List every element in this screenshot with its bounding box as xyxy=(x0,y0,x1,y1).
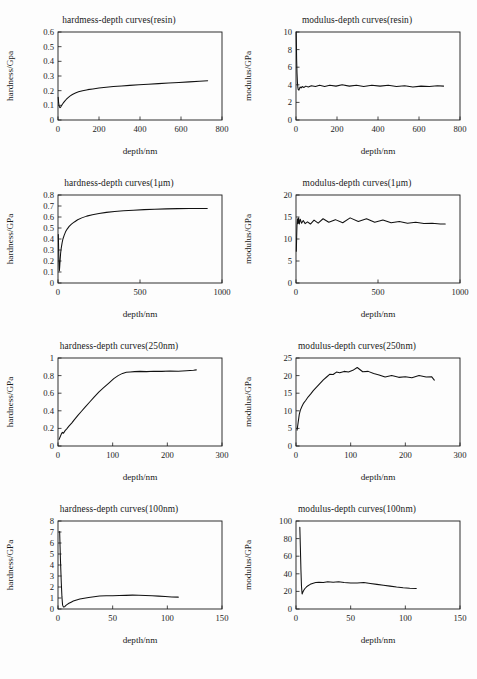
y-axis-title: hardness/GPa xyxy=(5,540,15,591)
y-tick-label: 0 xyxy=(288,115,292,125)
x-tick-label: 1000 xyxy=(213,287,230,297)
y-tick-label: 20 xyxy=(283,371,292,381)
y-tick-label: 0.8 xyxy=(43,371,54,381)
y-tick-label: 0.6 xyxy=(43,388,54,398)
y-tick-label: 40 xyxy=(283,569,292,579)
y-tick-label: 8 xyxy=(288,45,292,55)
chart-title: hardness-depth curves(250nm) xyxy=(0,340,238,352)
plot-area: 050100150020406080100depth/nmmodulus/GPa xyxy=(238,515,476,645)
y-tick-label: 0.1 xyxy=(43,100,54,110)
x-tick-label: 0 xyxy=(56,613,60,623)
data-series-curve xyxy=(59,370,196,440)
plot-area: 020040060080000.10.20.30.40.50.6depth/nm… xyxy=(0,26,238,156)
y-tick-label: 8 xyxy=(50,516,54,526)
y-tick-label: 6 xyxy=(288,62,293,72)
x-tick-label: 0 xyxy=(294,450,298,460)
y-axis-title: hardness/GPa xyxy=(5,377,15,428)
x-axis-title: depth/nm xyxy=(361,309,396,319)
plot-frame xyxy=(58,32,222,120)
y-tick-label: 3 xyxy=(50,571,54,581)
y-tick-label: 60 xyxy=(283,551,292,561)
y-axis-title: modulus/GPa xyxy=(243,540,253,590)
y-tick-label: 0.5 xyxy=(43,223,54,233)
x-tick-label: 0 xyxy=(294,287,298,297)
x-tick-label: 200 xyxy=(399,450,412,460)
y-tick-label: 0.4 xyxy=(43,56,54,66)
x-tick-label: 200 xyxy=(331,124,344,134)
plot-area: 01002003000510152025depth/nmmodulus/GPa xyxy=(238,352,476,482)
x-tick-label: 200 xyxy=(161,450,174,460)
y-tick-label: 0 xyxy=(288,604,292,614)
x-tick-label: 150 xyxy=(216,613,229,623)
plot-frame xyxy=(296,32,460,120)
y-tick-label: 0 xyxy=(50,278,54,288)
x-tick-label: 800 xyxy=(454,124,467,134)
y-tick-label: 0.3 xyxy=(43,245,54,255)
x-tick-label: 100 xyxy=(161,613,174,623)
chart-panel-modulus-1um: modulus-depth curves(1μm) 05001000051015… xyxy=(238,175,476,338)
x-tick-label: 0 xyxy=(294,124,298,134)
x-tick-label: 200 xyxy=(93,124,106,134)
y-tick-label: 10 xyxy=(283,234,292,244)
chart-title: hardmess-depth curves(resin) xyxy=(0,14,238,26)
y-tick-label: 7 xyxy=(50,527,55,537)
y-tick-label: 2 xyxy=(50,582,54,592)
y-axis-title: modulus/GPa xyxy=(243,377,253,427)
x-tick-label: 300 xyxy=(454,450,467,460)
x-axis-title: depth/nm xyxy=(361,635,396,645)
y-axis-title: modulus/GPa xyxy=(243,51,253,101)
y-tick-label: 1 xyxy=(50,593,54,603)
x-tick-label: 600 xyxy=(413,124,426,134)
x-tick-label: 500 xyxy=(134,287,147,297)
x-axis-title: depth/nm xyxy=(123,635,158,645)
y-axis-title: hardness/Gpa xyxy=(5,51,15,101)
data-series-curve xyxy=(296,32,443,90)
plot-area: 0500100005101520depth/nmmodulus/GPa xyxy=(238,189,476,319)
y-tick-label: 0.2 xyxy=(43,423,54,433)
chart-grid: hardmess-depth curves(resin) 02004006008… xyxy=(0,12,477,664)
y-tick-label: 0.2 xyxy=(43,256,54,266)
x-tick-label: 400 xyxy=(134,124,147,134)
x-tick-label: 100 xyxy=(106,450,119,460)
y-tick-label: 4 xyxy=(50,560,55,570)
y-tick-label: 0.4 xyxy=(43,234,54,244)
x-tick-label: 500 xyxy=(372,287,385,297)
y-tick-label: 5 xyxy=(288,423,292,433)
plot-area: 050100150012345678depth/nmhardness/GPa xyxy=(0,515,238,645)
y-tick-label: 1 xyxy=(50,353,54,363)
figure-sheet: hardmess-depth curves(resin) 02004006008… xyxy=(0,0,477,679)
y-tick-label: 0 xyxy=(50,441,54,451)
x-tick-label: 1000 xyxy=(451,287,468,297)
x-tick-label: 0 xyxy=(56,287,60,297)
plot-area: 02004006008000246810depth/nmmodulus/GPa xyxy=(238,26,476,156)
y-tick-label: 0.6 xyxy=(43,27,54,37)
chart-panel-hardness-1um: hardness-depth curves(1μm) 0500100000.10… xyxy=(0,175,238,338)
y-tick-label: 20 xyxy=(283,190,292,200)
x-tick-label: 150 xyxy=(454,613,467,623)
x-tick-label: 400 xyxy=(372,124,385,134)
y-tick-label: 0.5 xyxy=(43,42,54,52)
figure-caption xyxy=(26,670,451,679)
chart-title: modulus-depth curves(1μm) xyxy=(238,177,476,189)
data-series-curve xyxy=(58,81,207,108)
x-tick-label: 300 xyxy=(216,450,229,460)
plot-frame xyxy=(296,521,460,609)
x-tick-label: 600 xyxy=(175,124,188,134)
data-series-curve xyxy=(300,527,416,594)
x-axis-title: depth/nm xyxy=(123,146,158,156)
y-tick-label: 5 xyxy=(288,256,292,266)
y-tick-label: 10 xyxy=(283,406,292,416)
y-tick-label: 5 xyxy=(50,549,54,559)
y-tick-label: 0.6 xyxy=(43,212,54,222)
x-tick-label: 50 xyxy=(108,613,117,623)
chart-panel-hardness-250nm: hardness-depth curves(250nm) 01002003000… xyxy=(0,338,238,501)
y-tick-label: 0 xyxy=(288,278,292,288)
y-tick-label: 20 xyxy=(283,586,292,596)
x-tick-label: 100 xyxy=(344,450,357,460)
x-tick-label: 100 xyxy=(399,613,412,623)
x-axis-title: depth/nm xyxy=(123,472,158,482)
chart-panel-hardness-100nm: hardness-depth curves(100nm) 05010015001… xyxy=(0,501,238,664)
y-tick-label: 6 xyxy=(50,538,55,548)
y-tick-label: 15 xyxy=(283,388,292,398)
x-axis-title: depth/nm xyxy=(361,472,396,482)
